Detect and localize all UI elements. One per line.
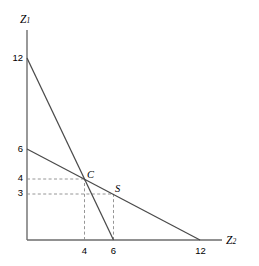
y-tick-label-6: 6 bbox=[4, 143, 23, 154]
x-tick-label-6: 6 bbox=[103, 245, 124, 256]
x-axis-title-subscript: 2 bbox=[232, 237, 236, 246]
y-tick-label-4: 4 bbox=[4, 172, 23, 183]
point-label-c: C bbox=[87, 169, 94, 180]
linear-programming-chart: Z1 Z2 12 6 4 3 4 6 12 C S bbox=[0, 0, 259, 266]
x-tick-label-4: 4 bbox=[74, 245, 95, 256]
y-axis-title-subscript: 1 bbox=[26, 16, 30, 25]
point-label-s: S bbox=[115, 183, 120, 194]
plot-area bbox=[0, 0, 259, 266]
x-tick-label-12: 12 bbox=[190, 245, 211, 256]
x-axis-title: Z2 bbox=[226, 231, 236, 247]
y-tick-label-12: 12 bbox=[4, 52, 23, 63]
y-axis-title: Z1 bbox=[20, 10, 30, 26]
y-tick-label-3: 3 bbox=[4, 187, 23, 198]
steep-constraint-line bbox=[27, 58, 114, 240]
